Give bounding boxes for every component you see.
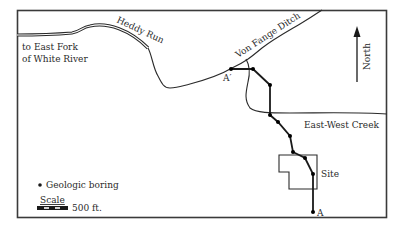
cross-section-line [231, 69, 313, 212]
boring-point [303, 156, 307, 160]
boring-point [288, 134, 292, 138]
east-fork-label-1: to East Fork [22, 42, 78, 52]
north-arrow: North [354, 26, 373, 82]
section-start-label: A [316, 208, 324, 218]
boring-point [291, 150, 295, 154]
von-fange-ditch-label: Von Fange Ditch [233, 10, 302, 60]
scale-value: 500 ft. [72, 203, 102, 213]
boring-point [311, 172, 315, 176]
boring-point [268, 83, 272, 87]
legend-boring-icon [38, 183, 42, 187]
boring-point [251, 67, 255, 71]
boring-point [311, 210, 315, 214]
boring-point [229, 67, 233, 71]
site-label: Site [321, 169, 339, 179]
scale-bar [37, 206, 68, 210]
boring-point [268, 113, 272, 117]
geologic-borings [229, 67, 315, 214]
legend: Geologic boring Scale 500 ft. [37, 180, 119, 213]
boring-point [276, 120, 280, 124]
east-west-creek-label: East-West Creek [304, 120, 379, 130]
scale-title: Scale [40, 195, 65, 205]
legend-boring-label: Geologic boring [46, 180, 119, 190]
site-map: North Heddy Run to East Fork of White Ri… [0, 0, 401, 230]
north-arrow-icon [354, 26, 361, 37]
east-fork-label-2: of White River [22, 54, 88, 64]
section-end-label: A′ [222, 73, 232, 83]
north-label: North [362, 43, 372, 70]
